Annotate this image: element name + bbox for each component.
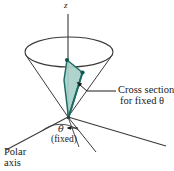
- polar-axis-label-line2: axis: [4, 157, 26, 168]
- right-horizontal-ray: [68, 117, 166, 146]
- cross-section-annotation-line1: Cross section: [118, 84, 174, 95]
- figure-container: z Cross section for fixed θ θ (fixed) Po…: [0, 0, 174, 171]
- cross-section-vertex-top: [65, 58, 69, 62]
- cross-section-annotation-line2: for fixed θ: [118, 95, 174, 106]
- fixed-label: (fixed): [51, 134, 77, 144]
- z-axis-label: z: [64, 1, 68, 11]
- cone-left-slant-edge: [25, 54, 68, 117]
- cross-section-annotation: Cross section for fixed θ: [118, 84, 174, 107]
- polar-axis-label-line1: Polar: [4, 146, 26, 157]
- cross-section-leader-line: [77, 82, 117, 91]
- cross-section-vertex-right: [80, 70, 84, 74]
- theta-label: θ: [58, 124, 64, 134]
- polar-axis-label: Polar axis: [4, 146, 26, 169]
